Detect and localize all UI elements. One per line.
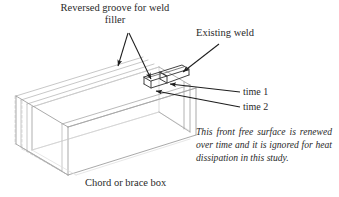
box-outer-outline xyxy=(16,88,196,175)
reversed-groove-block xyxy=(144,72,167,88)
arrow-time-2 xyxy=(156,91,240,107)
label-time-2: time 2 xyxy=(243,101,268,113)
figure-canvas: Reversed groove for weld filler Existing… xyxy=(0,0,339,197)
label-existing-weld: Existing weld xyxy=(196,27,254,39)
leader-arrows xyxy=(118,33,240,107)
arrow-reversed-groove-right xyxy=(129,33,151,79)
arrow-reversed-groove-left xyxy=(118,33,128,66)
weld-groove-detail xyxy=(144,65,189,88)
chord-brace-box-shape xyxy=(15,57,196,175)
box-interior-floor xyxy=(32,112,190,175)
box-far-inner-edge xyxy=(32,112,159,150)
box-far-wall-face xyxy=(32,67,159,150)
label-time-1: time 1 xyxy=(243,86,268,98)
box-hidden-lines xyxy=(15,96,68,175)
box-far-wall-rim xyxy=(16,57,159,107)
box-left-end-cap xyxy=(21,100,68,175)
note-front-free-surface: This front free surface is renewed over … xyxy=(196,126,332,165)
label-chord-or-brace-box: Chord or brace box xyxy=(85,177,166,189)
isometric-box-diagram xyxy=(0,0,339,197)
label-reversed-groove: Reversed groove for weld filler xyxy=(56,2,174,27)
arrow-existing-weld xyxy=(183,44,219,72)
